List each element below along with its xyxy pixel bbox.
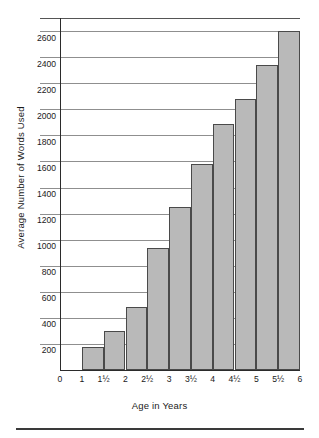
- y-axis-tick-labels: 2004006008001000120014001600180020002200…: [18, 0, 56, 438]
- y-axis-tick-label: 1800: [22, 137, 56, 147]
- y-axis-tick-label: 1200: [22, 215, 56, 225]
- bar: [126, 307, 148, 370]
- bar: [235, 99, 257, 370]
- bar: [147, 248, 169, 371]
- bar-series: [60, 18, 300, 370]
- y-axis-tick-label: 400: [22, 319, 56, 329]
- bar: [256, 65, 278, 370]
- y-axis-tick-label: 2000: [22, 111, 56, 121]
- bar: [213, 124, 235, 370]
- footer-rule: [16, 428, 304, 430]
- y-axis-tick-label: 1000: [22, 241, 56, 251]
- y-axis-tick-label: 2400: [22, 59, 56, 69]
- x-axis-tick-label: 6: [287, 374, 313, 384]
- y-axis-tick-label: 2200: [22, 85, 56, 95]
- y-axis-tick-label: 200: [22, 345, 56, 355]
- y-axis-tick-label: 2600: [22, 33, 56, 43]
- y-axis-tick-label: 800: [22, 267, 56, 277]
- y-axis-tick-label: 1600: [22, 163, 56, 173]
- x-axis-line: [60, 370, 300, 371]
- y-axis-tick-label: 1400: [22, 189, 56, 199]
- bar: [191, 164, 213, 370]
- bar: [82, 347, 104, 370]
- y-axis-tick-label: 600: [22, 293, 56, 303]
- bar: [169, 207, 191, 370]
- bar: [278, 31, 300, 370]
- bar: [104, 331, 126, 370]
- chart-figure: Average Number of Words Used 20040060080…: [0, 0, 319, 438]
- x-axis-title: Age in Years: [0, 400, 319, 411]
